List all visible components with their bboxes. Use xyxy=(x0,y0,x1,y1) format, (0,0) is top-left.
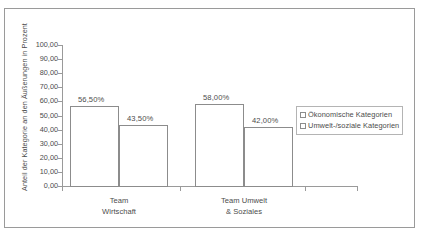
y-axis-tick-label: 90,00 xyxy=(24,55,58,63)
legend-swatch-icon xyxy=(300,123,306,129)
x-axis-category-label-line: Team Umwelt xyxy=(184,196,304,207)
y-axis-tick-label: 80,00 xyxy=(24,69,58,77)
bar xyxy=(244,127,293,187)
y-axis-tick-labels: 100,0090,0080,0070,0060,0050,0040,0030,0… xyxy=(22,0,58,239)
x-axis-category-label: Team Umwelt& Soziales xyxy=(184,196,304,217)
x-axis-category-label: TeamWirtschaft xyxy=(59,196,179,217)
bar-value-label: 56,50% xyxy=(78,95,104,104)
y-axis-line xyxy=(62,45,63,187)
y-axis-tick-label: 50,00 xyxy=(24,112,58,120)
legend-item: Ökonomische Kategorien xyxy=(300,109,399,120)
y-axis-tick-label: 60,00 xyxy=(24,97,58,105)
x-axis-tick-mark xyxy=(305,186,306,191)
x-axis-category-label-line: & Soziales xyxy=(184,207,304,218)
legend-item: Umwelt-/soziale Kategorien xyxy=(300,120,399,131)
bar xyxy=(119,125,168,187)
bar-value-label: 43,50% xyxy=(127,114,153,123)
x-axis-category-label-line: Wirtschaft xyxy=(59,207,179,218)
x-axis-tick-mark xyxy=(62,186,63,191)
y-axis-tick-label: 20,00 xyxy=(24,154,58,162)
bar-value-label: 58,00% xyxy=(203,93,229,102)
y-axis-tick-label: 70,00 xyxy=(24,83,58,91)
x-axis-tick-mark xyxy=(357,186,358,191)
bar-chart: Anteil der Kategorie an den Äußerungen i… xyxy=(0,0,426,239)
y-axis-tick-label: 10,00 xyxy=(24,168,58,176)
x-axis-tick-mark xyxy=(180,186,181,191)
y-axis-tick-label: 0,00 xyxy=(24,182,58,190)
bar-value-label: 42,00% xyxy=(252,116,278,125)
chart-legend: Ökonomische KategorienUmwelt-/soziale Ka… xyxy=(296,106,403,135)
y-axis-tick-label: 40,00 xyxy=(24,126,58,134)
legend-swatch-icon xyxy=(300,112,306,118)
y-axis-tick-label: 100,00 xyxy=(24,41,58,49)
legend-item-label: Umwelt-/soziale Kategorien xyxy=(308,120,399,131)
x-axis-category-label-line: Team xyxy=(59,196,179,207)
legend-item-label: Ökonomische Kategorien xyxy=(308,109,392,120)
bar xyxy=(195,104,244,187)
y-axis-tick-label: 30,00 xyxy=(24,140,58,148)
bar xyxy=(70,106,119,187)
